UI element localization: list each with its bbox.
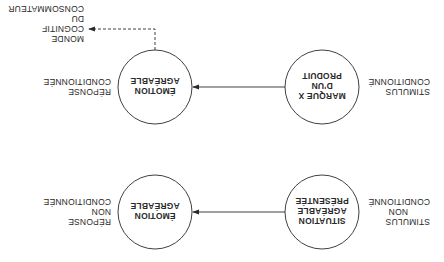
text-line: CONDITIONNÉ (368, 77, 430, 87)
node-emotion-label-1: ÉMOTION AGRÉABLE (120, 201, 190, 221)
dashed-arrow-cognitive (89, 29, 155, 50)
text-line: RÉPONSE (43, 217, 111, 227)
node-emotion-label-2: ÉMOTION AGRÉABLE (120, 76, 190, 96)
label-response-unconditioned: RÉPONSE NON CONDITIONNÉE (43, 197, 111, 227)
node-brand-label: MARQUE X D'UN PRODUIT (287, 71, 357, 101)
text-line: COGNITIF (8, 24, 84, 34)
text-line: PRÉSENTÉE (287, 196, 357, 206)
text-line: CONDITIONNÉ (368, 197, 430, 207)
text-line: D'UN (287, 81, 357, 91)
text-line: AGRÉABLE (120, 201, 190, 211)
text-line: NON (368, 207, 430, 217)
text-line: STIMULUS (368, 217, 430, 227)
text-line: ÉMOTION (120, 86, 190, 96)
text-line: CONDITIONNÉE (43, 77, 111, 87)
text-line: NON (43, 207, 111, 217)
text-line: MARQUE X (287, 91, 357, 101)
text-line: MONDE (8, 34, 84, 44)
conditioning-diagram: STIMULUS NON CONDITIONNÉ SITUATION AGRÉA… (0, 0, 444, 262)
text-line: DU (8, 14, 84, 24)
text-line: AGRÉABLE (120, 76, 190, 86)
label-stimulus-unconditioned: STIMULUS NON CONDITIONNÉ (368, 197, 430, 227)
text-line: SITUATION (287, 216, 357, 226)
text-line: PRODUIT (287, 71, 357, 81)
text-line: RÉPONSE (43, 87, 111, 97)
label-stimulus-conditioned: STIMULUS CONDITIONNÉ (368, 77, 430, 97)
label-response-conditioned: RÉPONSE CONDITIONNÉE (43, 77, 111, 97)
text-line: CONDITIONNÉE (43, 197, 111, 207)
node-situation-label: SITUATION AGRÉABLE PRÉSENTÉE (287, 196, 357, 226)
text-line: STIMULUS (368, 87, 430, 97)
label-cognitive-world: MONDE COGNITIF DU CONSOMMATEUR (8, 4, 84, 44)
text-line: ÉMOTION (120, 211, 190, 221)
text-line: AGRÉABLE (287, 206, 357, 216)
text-line: CONSOMMATEUR (8, 4, 84, 14)
